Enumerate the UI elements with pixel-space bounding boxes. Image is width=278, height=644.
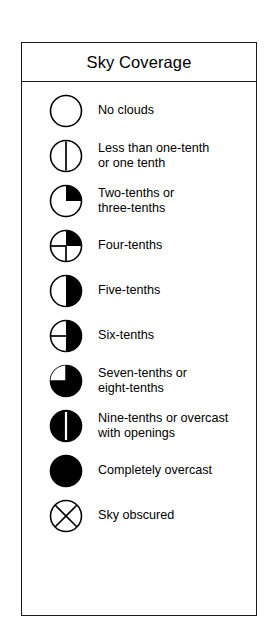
legend-row: Four-tenths: [22, 223, 256, 268]
legend-row: Less than one-tenth or one tenth: [22, 133, 256, 178]
sky-coverage-symbol-nine-tenths: [36, 409, 96, 443]
legend-row: Sky obscured: [22, 493, 256, 538]
legend-row-label: Sky obscured: [96, 508, 174, 522]
sky-coverage-legend-panel: Sky Coverage No clouds Less than one-ten…: [21, 42, 257, 616]
legend-row: Two-tenths or three-tenths: [22, 178, 256, 223]
legend-row: Six-tenths: [22, 313, 256, 358]
page-title: Sky Coverage: [87, 53, 192, 72]
sky-coverage-symbol-obscured: [36, 499, 96, 533]
legend-row-label: Five-tenths: [96, 283, 160, 297]
sky-coverage-symbol-no-clouds: [36, 94, 96, 128]
legend-row: No clouds: [22, 88, 256, 133]
legend-row-label: Seven-tenths or eight-tenths: [96, 366, 187, 394]
legend-row-label: Nine-tenths or overcast with openings: [96, 411, 228, 439]
legend-row-label: Six-tenths: [96, 328, 154, 342]
sky-coverage-symbol-six-tenths: [36, 319, 96, 353]
legend-title-bar: Sky Coverage: [22, 43, 256, 82]
sky-coverage-symbol-four-tenths: [36, 229, 96, 263]
legend-row: Five-tenths: [22, 268, 256, 313]
legend-row-list: No clouds Less than one-tenth or one ten…: [22, 82, 256, 538]
sky-coverage-symbol-two-three-tenths: [36, 184, 96, 218]
sky-coverage-symbol-five-tenths: [36, 274, 96, 308]
legend-row-label: Two-tenths or three-tenths: [96, 186, 174, 214]
sky-coverage-symbol-seven-eight-tenths: [36, 364, 96, 398]
legend-row: Nine-tenths or overcast with openings: [22, 403, 256, 448]
sky-coverage-symbol-overcast: [36, 454, 96, 488]
legend-row-label: Completely overcast: [96, 463, 212, 477]
legend-row-label: Less than one-tenth or one tenth: [96, 141, 209, 169]
legend-row-label: No clouds: [96, 103, 154, 117]
legend-row-label: Four-tenths: [96, 238, 162, 252]
legend-row: Seven-tenths or eight-tenths: [22, 358, 256, 403]
legend-row: Completely overcast: [22, 448, 256, 493]
sky-coverage-symbol-one-tenth: [36, 139, 96, 173]
